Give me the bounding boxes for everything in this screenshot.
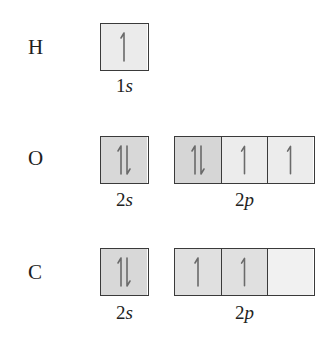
subshell-label-c-2s: 2s (100, 303, 149, 322)
orbital-cell-paired (101, 137, 147, 183)
electron-pair-arrows-icon (101, 252, 147, 292)
electron-up-arrow-icon (222, 252, 267, 292)
element-symbol-o: O (28, 148, 43, 169)
orbital-cell-paired (101, 249, 147, 295)
element-symbol-c: C (28, 262, 42, 283)
orbital-box-c-2s (100, 248, 149, 296)
subshell-label-c-2p: 2p (174, 303, 315, 322)
subshell-label-o-2s: 2s (100, 190, 149, 209)
subshell-label-o-2p: 2p (174, 190, 315, 209)
orbital-cell-single (101, 24, 147, 70)
electron-pair-arrows-icon (101, 140, 147, 180)
electron-up-arrow-icon (175, 252, 221, 292)
electron-up-arrow-icon (222, 140, 267, 180)
orbital-cell-single (221, 249, 267, 295)
orbital-box-o-2s (100, 136, 149, 184)
orbital-box-c-2p (174, 248, 315, 296)
orbital-cell-single (175, 249, 221, 295)
orbital-cell-single (221, 137, 267, 183)
orbital-box-o-2p (174, 136, 315, 184)
subshell-label-h-1s: 1s (100, 76, 149, 95)
orbital-box-h-1s (100, 23, 149, 71)
orbital-cell-paired (175, 137, 221, 183)
electron-up-arrow-icon (101, 27, 147, 67)
orbital-cell-single (267, 137, 313, 183)
orbital-cell-empty (267, 249, 313, 295)
electron-up-arrow-icon (268, 140, 313, 180)
electron-pair-arrows-icon (175, 140, 221, 180)
element-symbol-h: H (28, 37, 43, 58)
